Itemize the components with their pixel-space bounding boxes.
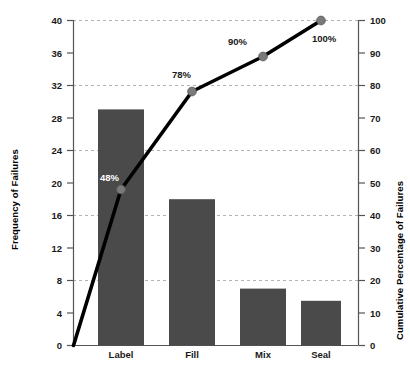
left-tick-40: 40 — [51, 15, 62, 26]
right-axis-title: Cumulative Percentage of Failures — [394, 181, 405, 340]
right-tick-50: 50 — [370, 178, 381, 189]
left-tick-12: 12 — [51, 243, 62, 254]
left-tick-24: 24 — [51, 145, 62, 156]
right-tick-30: 30 — [370, 243, 381, 254]
right-tick-40: 40 — [370, 210, 381, 221]
data-point-mix-90[interactable] — [259, 52, 268, 61]
category-label-seal: Seal — [311, 349, 331, 360]
left-tick-4: 4 — [57, 308, 63, 319]
right-tick-20: 20 — [370, 275, 381, 286]
right-tick-70: 70 — [370, 113, 381, 124]
bar-label[interactable] — [98, 109, 144, 345]
left-tick-28: 28 — [51, 113, 62, 124]
left-tick-36: 36 — [51, 48, 62, 59]
right-tick-100: 100 — [370, 15, 386, 26]
category-label-fill: Fill — [185, 349, 199, 360]
left-tick-0: 0 — [57, 340, 62, 351]
data-point-fill-78[interactable] — [188, 87, 197, 96]
left-tick-8: 8 — [57, 275, 62, 286]
data-point-label-48[interactable] — [117, 185, 126, 194]
right-tick-10: 10 — [370, 308, 381, 319]
bar-fill[interactable] — [169, 199, 215, 345]
right-tick-80: 80 — [370, 80, 381, 91]
left-tick-16: 16 — [51, 210, 62, 221]
bar-seal[interactable] — [301, 301, 341, 346]
chart-canvas: 40 36 32 28 24 20 16 12 8 4 0 — [0, 0, 410, 373]
left-tick-20: 20 — [51, 178, 62, 189]
left-tick-32: 32 — [51, 80, 62, 91]
category-label-mix: Mix — [255, 349, 272, 360]
point-label-100: 100% — [312, 33, 337, 44]
point-label-78: 78% — [172, 69, 192, 80]
bar-mix[interactable] — [240, 289, 286, 346]
right-tick-60: 60 — [370, 145, 381, 156]
data-point-seal-100[interactable] — [317, 16, 326, 25]
pareto-chart: 40 36 32 28 24 20 16 12 8 4 0 — [0, 0, 410, 373]
point-label-90: 90% — [228, 36, 248, 47]
left-axis-title: Frequency of Failures — [9, 149, 20, 250]
category-label-label: Label — [109, 349, 134, 360]
point-label-48: 48% — [100, 172, 120, 183]
right-tick-90: 90 — [370, 48, 381, 59]
right-tick-0: 0 — [370, 340, 375, 351]
